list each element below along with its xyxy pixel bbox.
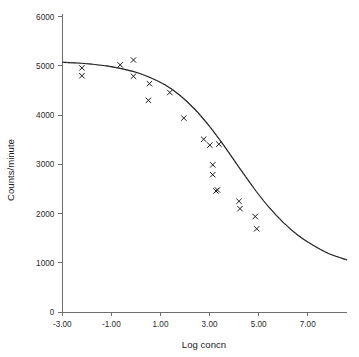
data-point-marker <box>146 98 151 103</box>
chart-figure: 0100020003000400050006000 -3.00-1.001.00… <box>0 0 359 357</box>
fitted-curve-group <box>62 62 347 260</box>
data-point-marker <box>237 206 242 211</box>
data-point-marker <box>216 141 221 146</box>
fitted-logistic-curve <box>62 62 347 260</box>
y-tick-label: 1000 <box>36 259 55 268</box>
y-tick-label: 6000 <box>36 13 55 22</box>
data-point-marker <box>167 90 172 95</box>
x-tick-label: 7.00 <box>300 320 316 329</box>
y-axis-ticks: 0100020003000400050006000 <box>36 13 62 317</box>
data-point-markers <box>79 57 259 231</box>
data-point-marker <box>181 115 186 120</box>
data-point-marker <box>236 199 241 204</box>
data-point-marker <box>147 81 152 86</box>
x-tick-label: -3.00 <box>53 320 72 329</box>
x-tick-label: 3.00 <box>202 320 218 329</box>
x-axis-title: Log concn <box>182 339 226 350</box>
fitted-curve-confidence-overlay <box>62 62 347 260</box>
y-tick-label: 0 <box>50 308 55 317</box>
x-axis-ticks: -3.00-1.001.003.005.007.00 <box>53 312 316 329</box>
y-tick-label: 3000 <box>36 160 55 169</box>
data-point-marker <box>201 137 206 142</box>
data-point-marker <box>254 226 259 231</box>
y-tick-label: 2000 <box>36 210 55 219</box>
scatter-plot-canvas: 0100020003000400050006000 -3.00-1.001.00… <box>0 0 359 357</box>
y-axis-title: Counts/minute <box>5 139 16 201</box>
x-tick-label: 5.00 <box>251 320 267 329</box>
data-point-marker <box>118 62 123 67</box>
data-point-marker <box>253 214 258 219</box>
x-tick-label: 1.00 <box>153 320 169 329</box>
y-tick-label: 4000 <box>36 111 55 120</box>
data-point-marker <box>131 57 136 62</box>
x-tick-label: -1.00 <box>102 320 121 329</box>
plot-axes <box>62 14 347 312</box>
data-point-marker <box>79 73 84 78</box>
data-point-marker <box>79 65 84 70</box>
data-point-marker <box>210 172 215 177</box>
data-point-marker <box>207 142 212 147</box>
data-point-marker <box>210 162 215 167</box>
y-tick-label: 5000 <box>36 62 55 71</box>
data-point-marker <box>131 74 136 79</box>
